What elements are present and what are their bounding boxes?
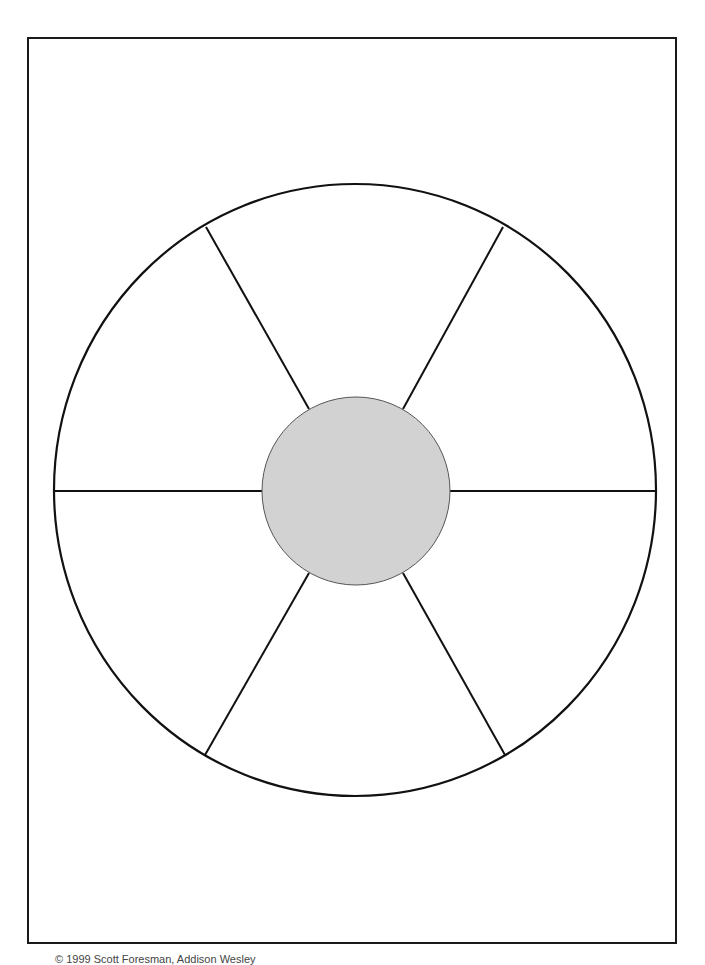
spoke-line-6 <box>403 573 505 755</box>
spoke-line-3 <box>206 227 309 409</box>
center-hub-circle <box>262 397 450 585</box>
copyright-footer: © 1999 Scott Foresman, Addison Wesley <box>55 953 256 965</box>
spoke-line-4 <box>403 227 503 409</box>
spoke-line-5 <box>205 573 309 755</box>
